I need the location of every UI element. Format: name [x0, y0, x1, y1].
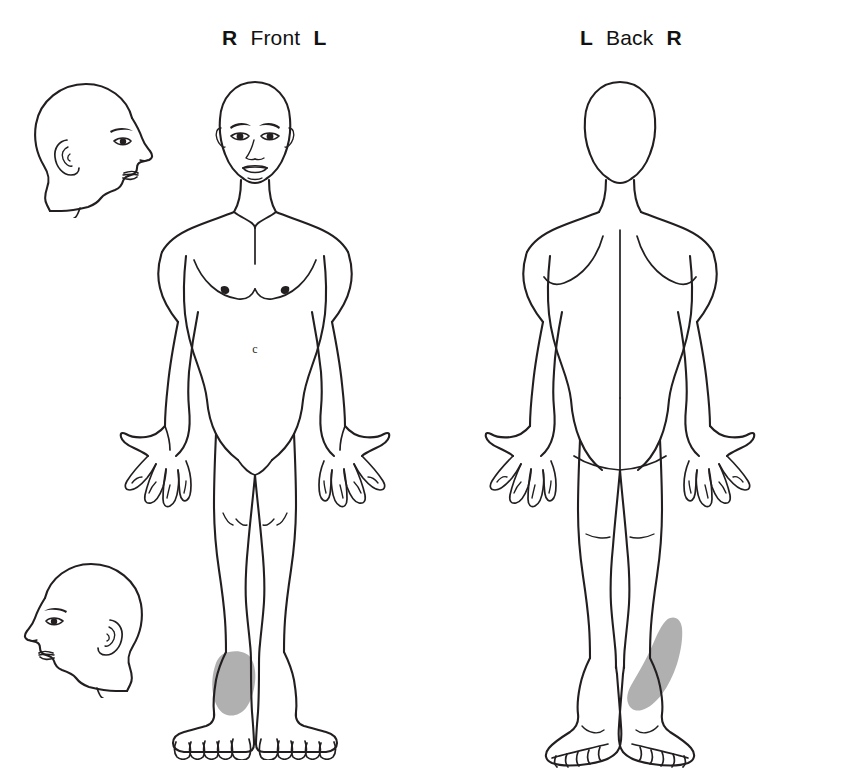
front-view-labels: R Front L — [222, 26, 326, 50]
knee-cap-right-outer — [277, 513, 287, 525]
fingernail-back-left-1 — [497, 477, 507, 482]
toe-left-3 — [204, 741, 219, 759]
upper-lip — [39, 652, 53, 654]
toe-back-left-2 — [588, 750, 590, 764]
groin-left — [238, 460, 255, 475]
upper-arm-outer-right-back — [697, 322, 710, 426]
finger-back-right-ring — [696, 469, 712, 507]
pupil-left — [237, 133, 244, 140]
hand-right-wrist — [320, 408, 334, 456]
eyebrow-right — [259, 123, 280, 129]
upper-arm-outer-left — [165, 322, 178, 426]
front-right-side-label: L — [313, 26, 326, 50]
finger-right-pinky — [319, 461, 332, 501]
leg-inner-left — [246, 475, 255, 664]
leg-inner-right-back — [620, 470, 629, 668]
toe-back-right-2 — [650, 750, 652, 764]
back-right-side-label: R — [667, 26, 682, 50]
toe-left-2 — [218, 741, 233, 759]
upper-arm-outer-left-back — [530, 322, 543, 426]
leg-outer-right — [284, 434, 296, 652]
foot-outline-right — [256, 652, 337, 752]
nose-bridge — [246, 140, 255, 160]
head-outline — [220, 82, 291, 183]
upper-arm-outer-right — [332, 322, 345, 426]
body-figure-back-svg — [470, 58, 770, 768]
hip-right-back — [638, 400, 669, 470]
pupil — [51, 618, 57, 624]
fingernail-right-3 — [340, 485, 343, 498]
head-outline-back — [585, 82, 656, 183]
finger-left-pinky — [178, 461, 191, 501]
leg-outer-left — [214, 434, 226, 652]
back-view-title: Back — [606, 26, 654, 50]
eyebrow — [44, 608, 67, 613]
knee-cap-left-inner — [236, 519, 247, 525]
deltoid-right-back — [697, 252, 717, 322]
nostril-line — [29, 640, 37, 641]
fingernail-back-right-2 — [719, 482, 726, 493]
fingernail-left-2 — [149, 482, 156, 493]
shoulder-left-back — [527, 212, 599, 252]
hand-left-wrist — [176, 408, 190, 456]
toe-right-1 — [260, 739, 279, 760]
toe-right-4 — [306, 742, 321, 759]
back-left-side-label: L — [580, 26, 593, 50]
deltoid-left — [158, 252, 178, 322]
leg-inner-left-back — [611, 470, 620, 668]
toe-left-1 — [232, 739, 251, 760]
neck-left-back — [599, 180, 606, 212]
toe-back-right-1 — [639, 747, 641, 761]
finger-right-ring — [331, 469, 347, 507]
leg-outer-right-back — [650, 440, 662, 658]
back-view-labels: L Back R — [580, 26, 682, 50]
toe-right-3 — [292, 741, 307, 759]
fingernail-right-2 — [354, 482, 361, 493]
knee-crease-left — [586, 534, 610, 538]
ear-outline — [55, 140, 79, 175]
clavicle-right — [255, 212, 276, 228]
scapula-right — [637, 236, 696, 284]
pain-region-front-right-foot[interactable] — [212, 651, 255, 715]
hip-left-back — [571, 400, 602, 470]
fingernail-left-4 — [184, 481, 186, 493]
toe-back-left-1 — [599, 747, 601, 761]
hand-right-thumb-back — [710, 426, 754, 456]
pain-body-chart: R Front L L Back R — [0, 0, 854, 777]
gluteal-fold-left — [574, 456, 620, 470]
mouth-line — [39, 654, 54, 655]
fingernail-back-left-4 — [549, 481, 551, 493]
knee-cap-left-outer — [223, 513, 233, 525]
shoulder-right-back — [641, 212, 713, 252]
neck-right-back — [634, 180, 641, 212]
fingernail-back-right-1 — [733, 477, 743, 482]
fingernail-left-3 — [167, 485, 170, 498]
deltoid-right — [332, 252, 352, 322]
toe-right-2 — [278, 741, 293, 759]
lower-lip — [243, 168, 267, 173]
neck-right — [269, 180, 276, 212]
neck-left — [234, 180, 241, 212]
leg-inner-right — [255, 475, 264, 664]
fingernail-right-4 — [324, 481, 326, 493]
fingernail-back-right-4 — [689, 481, 691, 493]
navel-mark: c — [252, 342, 257, 356]
hand-right-wrist-back — [685, 408, 699, 456]
body-figure-back[interactable] — [470, 58, 770, 768]
mouth-line — [244, 167, 266, 168]
hip-right — [272, 400, 303, 460]
chin-crease — [248, 178, 262, 180]
ear-inner — [62, 147, 72, 166]
ear-tragus — [107, 634, 109, 641]
body-figure-front[interactable]: c — [110, 60, 400, 760]
fingernail-right-1 — [368, 477, 378, 483]
pain-region-back-right-achilles[interactable] — [627, 617, 682, 710]
toe-left-4 — [190, 742, 205, 759]
hand-left-wrist-back — [541, 408, 555, 456]
finger-left-ring — [163, 469, 179, 507]
scapula-left — [544, 236, 603, 284]
hip-left — [207, 400, 238, 460]
deltoid-left-back — [523, 252, 543, 322]
front-view-title: Front — [250, 26, 300, 50]
fingernail-back-left-2 — [514, 482, 521, 493]
